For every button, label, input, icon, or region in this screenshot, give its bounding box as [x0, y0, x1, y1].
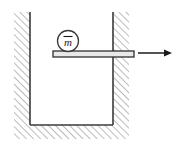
- force-arrow-right: [138, 49, 172, 56]
- floor: [14, 125, 129, 139]
- figure-canvas: m: [0, 0, 177, 145]
- left-wall-hatch: [14, 12, 30, 125]
- arrow-head: [164, 49, 172, 56]
- mass-marker: m: [58, 31, 79, 52]
- rod-body: [53, 51, 134, 57]
- mass-symbol-label: m: [64, 36, 72, 48]
- horizontal-rod: [53, 51, 134, 57]
- right-wall: [113, 12, 129, 125]
- physics-figure: m: [0, 0, 177, 145]
- floor-hatch: [14, 125, 129, 139]
- right-wall-hatch: [113, 12, 129, 125]
- left-wall: [14, 12, 30, 125]
